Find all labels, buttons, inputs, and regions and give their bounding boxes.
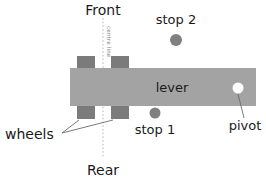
pivot-circle bbox=[233, 83, 244, 94]
diagram-canvas: Front Rear centre line lever pivot stop … bbox=[0, 0, 266, 180]
wheels-label: wheels bbox=[5, 126, 54, 142]
wheels-leader-line-rear bbox=[62, 120, 113, 133]
stop-2-circle bbox=[170, 34, 182, 46]
centre-line-label: centre line bbox=[106, 26, 112, 58]
wheel-block-front-upper bbox=[77, 56, 95, 69]
stop-2-label: stop 2 bbox=[156, 12, 196, 27]
front-label: Front bbox=[85, 2, 121, 18]
pivot-label: pivot bbox=[229, 118, 262, 133]
wheel-block-front-lower bbox=[77, 105, 95, 119]
rear-label: Rear bbox=[87, 162, 119, 178]
stop-1-circle bbox=[150, 108, 161, 119]
wheel-block-rear-upper bbox=[111, 56, 129, 69]
lever-mechanism-diagram: Front Rear centre line lever pivot stop … bbox=[0, 0, 266, 180]
wheel-block-rear-lower bbox=[111, 105, 129, 119]
lever-label: lever bbox=[156, 80, 189, 95]
stop-1-label: stop 1 bbox=[135, 122, 175, 137]
